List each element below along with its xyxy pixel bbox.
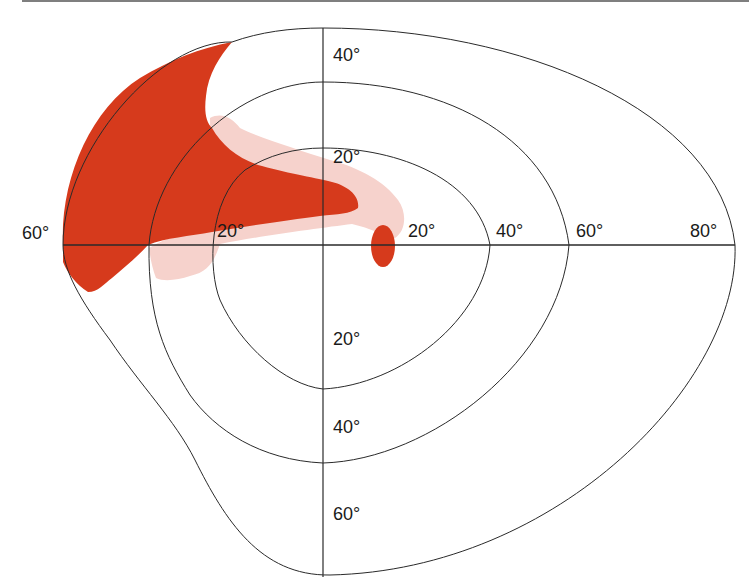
blind-spot (371, 225, 395, 267)
label-horizontal-right-60: 60° (576, 222, 603, 240)
label-vertical-down-60: 60° (333, 505, 360, 523)
visual-field-diagram (0, 0, 749, 583)
label-vertical-down-20: 20° (333, 330, 360, 348)
label-horizontal-right-40: 40° (496, 222, 523, 240)
label-horizontal-left-20: 20° (217, 222, 244, 240)
label-left-60: 60° (22, 224, 49, 242)
label-vertical-down-40: 40° (333, 418, 360, 436)
label-horizontal-right-20: 20° (408, 222, 435, 240)
label-vertical-up-20: 20° (333, 148, 360, 166)
label-vertical-up-40: 40° (333, 46, 360, 64)
label-horizontal-right-80: 80° (690, 222, 717, 240)
